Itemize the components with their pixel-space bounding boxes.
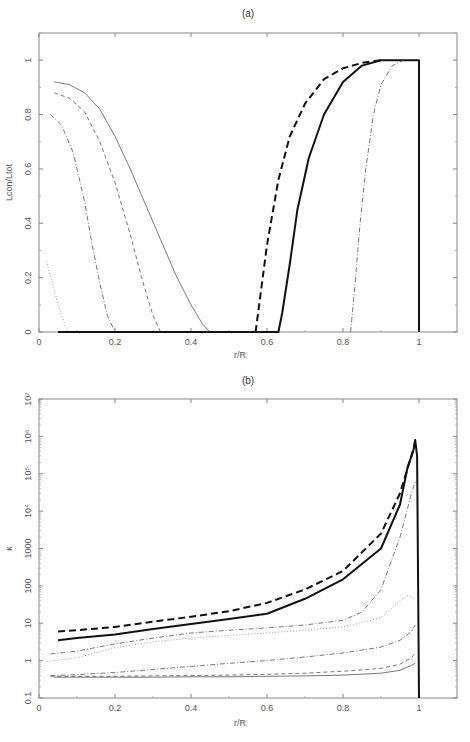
panel-title: (b) (242, 375, 254, 386)
series-line-thin-dotted (47, 596, 416, 662)
panel-b: (b)00.20.40.60.810.1110100100010⁴10⁵10⁶1… (4, 375, 457, 728)
x-tick-label: 0.8 (337, 703, 350, 713)
series-line-thin-solid (54, 82, 267, 332)
series-line-thin-dashdot-low (50, 625, 415, 676)
y-tick-label: 1 (23, 58, 33, 63)
y-tick-label: 100 (23, 578, 33, 593)
x-tick-label: 0.4 (185, 337, 198, 347)
y-tick-label: 0.1 (23, 692, 33, 705)
x-tick-label: 0.2 (109, 703, 122, 713)
x-tick-label: 0.2 (109, 337, 122, 347)
y-axis-label: κ (4, 546, 14, 551)
y-tick-label: 10⁴ (23, 504, 33, 518)
y-tick-label: 0.4 (23, 217, 33, 230)
figure: (a)00.20.40.60.8100.20.40.60.81r/RLcon/L… (0, 0, 470, 742)
plot-frame (39, 33, 457, 332)
x-tick-label: 0.4 (185, 703, 198, 713)
series-line-thick-solid (58, 60, 419, 332)
x-tick-label: 0.8 (337, 337, 350, 347)
y-tick-label: 1000 (23, 538, 33, 558)
series-line-thick-solid (58, 440, 419, 698)
y-tick-label: 0 (23, 329, 33, 334)
x-tick-label: 1 (416, 703, 421, 713)
panel-a: (a)00.20.40.60.8100.20.40.60.81r/RLcon/L… (4, 8, 457, 360)
y-tick-label: 10⁷ (23, 392, 33, 405)
series-line-thin-dotted (47, 261, 68, 332)
y-tick-label: 10⁶ (23, 429, 33, 443)
series-line-thin-dashdot-outer (351, 60, 404, 332)
y-axis-label: Lcon/Ltot (4, 163, 14, 201)
x-tick-label: 0 (36, 703, 41, 713)
y-tick-label: 10⁵ (23, 467, 33, 481)
y-tick-label: 0.2 (23, 271, 33, 284)
x-axis-label: r/R (234, 350, 246, 360)
x-tick-label: 1 (416, 337, 421, 347)
series-line-thick-dashed (256, 60, 381, 332)
x-tick-label: 0.6 (261, 337, 274, 347)
series-line-thick-dashed (58, 442, 415, 631)
series-line-thin-dashed (54, 93, 160, 332)
panel-title: (a) (242, 8, 254, 19)
x-tick-label: 0 (36, 337, 41, 347)
plot-frame (39, 399, 457, 698)
y-tick-label: 0.6 (23, 163, 33, 176)
series-line-thin-dashdot (50, 115, 115, 333)
x-tick-label: 0.6 (261, 703, 274, 713)
y-tick-label: 0.8 (23, 108, 33, 121)
x-axis-label: r/R (234, 718, 246, 728)
y-tick-label: 10 (23, 618, 33, 628)
y-tick-label: 1 (23, 658, 33, 663)
